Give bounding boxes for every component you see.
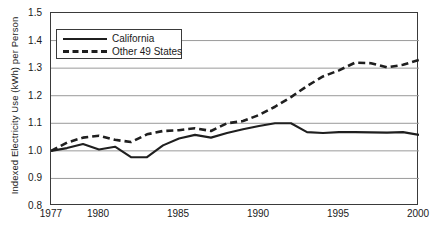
solid-line-key-icon [63, 34, 107, 44]
x-tick-label: 1995 [327, 208, 349, 219]
legend-item-other-49-states: Other 49 States [63, 45, 181, 58]
dashed-line-key-icon [63, 47, 107, 57]
y-tick-label: 1.0 [0, 144, 42, 155]
series-line-other-49-states [51, 60, 419, 151]
x-tick-label: 1980 [87, 208, 109, 219]
x-tick-label: 1985 [167, 208, 189, 219]
y-tick-label: 0.9 [0, 172, 42, 183]
x-tick-label: 2000 [407, 208, 429, 219]
y-tick-label: 1.3 [0, 62, 42, 73]
x-tick-label: 1977 [40, 208, 62, 219]
y-tick-label: 1.4 [0, 34, 42, 45]
y-tick-label: 0.8 [0, 200, 42, 211]
x-tick-label: 1990 [247, 208, 269, 219]
legend-label-california: California [112, 33, 154, 44]
y-tick-label: 1.5 [0, 7, 42, 18]
y-tick-label: 1.2 [0, 89, 42, 100]
electricity-use-line-chart: Indexed Electricity Use (kWh) per Person… [0, 0, 439, 248]
y-tick-label: 1.1 [0, 117, 42, 128]
series-line-california [51, 123, 419, 157]
legend-label-other-49-states: Other 49 States [112, 46, 182, 57]
legend-item-california: California [63, 32, 181, 45]
chart-legend: California Other 49 States [56, 29, 182, 59]
